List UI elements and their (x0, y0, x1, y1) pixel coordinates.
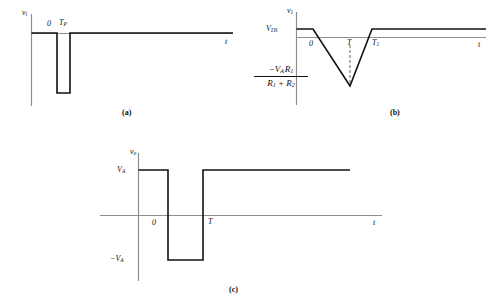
panel-a: vi t 0 TP (a) (0, 0, 248, 130)
panel-c-tick-zero: 0 (152, 219, 156, 227)
panel-c-plot (60, 145, 390, 305)
panel-c-x-axis-label: t (373, 219, 375, 227)
panel-b-level-vds: VDS (266, 25, 278, 34)
fraction-numerator: −VA R1 (254, 64, 308, 77)
panel-b-caption: (b) (390, 108, 400, 117)
panel-b-tick-t: T (347, 39, 351, 47)
fraction-denominator: R1 + R2 (254, 77, 308, 89)
panel-b-tick-zero: 0 (309, 40, 313, 48)
panel-a-waveform (32, 33, 234, 93)
panel-a-tick-zero: 0 (47, 20, 51, 28)
panel-c-tick-t: T (208, 218, 212, 226)
panel-a-y-axis-label: vi (22, 9, 27, 18)
panel-a-x-axis-label: t (225, 38, 227, 46)
panel-c-caption: (c) (229, 285, 238, 294)
panel-c-level-high: VA (117, 166, 125, 175)
panel-b-y-axis-label: v1 (287, 7, 293, 16)
panel-a-tick-tp: TP (59, 19, 67, 28)
panel-c: vo t VA −VA 0 T (c) (60, 145, 390, 305)
panel-a-caption: (a) (122, 108, 131, 117)
panel-c-level-low: −VA (110, 255, 124, 264)
panel-b-tick-t1: T1 (372, 39, 379, 48)
panel-c-y-axis-label: vo (130, 148, 136, 157)
panel-b: v1 t VDS 0 T T1 −VA R1 R1 + R2 (b) (248, 0, 496, 130)
figure-root: vi t 0 TP (a) v1 t VDS 0 T T1 −VA R1 R1 … (0, 0, 496, 305)
panel-b-x-axis-label: t (478, 41, 480, 49)
panel-b-min-level-fraction: −VA R1 R1 + R2 (254, 64, 308, 90)
